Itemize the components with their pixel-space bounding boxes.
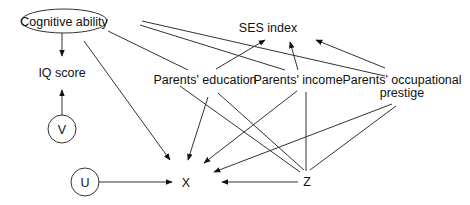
edge-prestige-to-x bbox=[214, 104, 392, 172]
parents-income-label: Parents' income bbox=[253, 73, 342, 87]
edge-income-to-x bbox=[204, 91, 297, 163]
ses-index-label: SES index bbox=[239, 21, 298, 35]
causal-diagram: Cognitive ability IQ score V U X Z SES i… bbox=[0, 0, 470, 205]
parents-prestige-label-line1: Parents' occupational bbox=[342, 73, 461, 87]
iq-score-label: IQ score bbox=[38, 66, 85, 80]
edge-education-to-ses bbox=[216, 40, 265, 69]
edge-education-to-z-2 bbox=[218, 93, 304, 170]
x-label: X bbox=[182, 176, 191, 190]
edge-cognitive-to-education bbox=[108, 31, 188, 70]
edge-prestige-to-z bbox=[310, 106, 396, 170]
edge-cognitive-to-x bbox=[84, 41, 170, 160]
edge-education-to-x bbox=[188, 97, 208, 160]
parents-prestige-label-line2: prestige bbox=[380, 86, 425, 100]
v-label: V bbox=[58, 123, 67, 137]
parents-education-label: Parents' education bbox=[153, 73, 256, 87]
edges bbox=[62, 21, 396, 182]
node-v: V bbox=[48, 115, 76, 143]
edge-prestige-to-ses bbox=[316, 40, 385, 68]
u-label: U bbox=[80, 176, 89, 190]
z-label: Z bbox=[303, 175, 311, 189]
cognitive-ability-label: Cognitive ability bbox=[20, 15, 108, 29]
node-u: U bbox=[71, 168, 99, 196]
node-cognitive-ability: Cognitive ability bbox=[20, 9, 108, 33]
